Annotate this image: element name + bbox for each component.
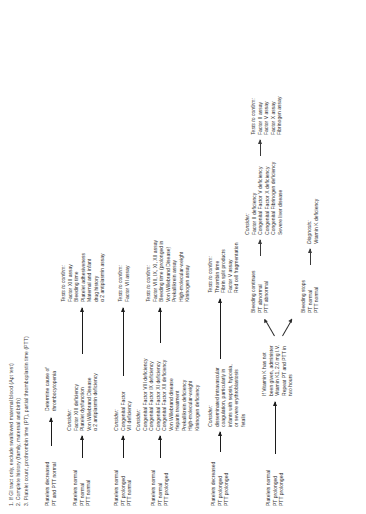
arrow-b6-diagnosis <box>310 249 311 265</box>
branch4-confirm: Tests to confirm: Factor VIII, IX, XI, X… <box>145 240 191 302</box>
arrow-b6-confirm <box>260 140 261 156</box>
arrow-b4-consider <box>160 436 161 458</box>
header-note-3: 3. Platelet count, prothrombin time (PT)… <box>23 336 30 506</box>
header-note-2: 2. Complete history (family, maternal an… <box>15 336 22 506</box>
branch5-confirm: Tests to confirm: Thrombin time Fibrin s… <box>207 243 240 293</box>
branch5-test: Platelets decreased PT prolonged PTT pro… <box>210 462 230 506</box>
branch1-test: Platelets decreased PT and PTT normal <box>44 462 57 506</box>
branch6-test: Platelets normal PT prolonged PTT prolon… <box>265 470 285 506</box>
header-notes: 1. If GI tract only, exclude swallowed m… <box>8 336 30 506</box>
branch2-test: Platelets normal PT normal PTT normal <box>72 470 92 506</box>
branch1-result: Determine cause of thrombocytopenia <box>44 367 57 411</box>
branch6-outcome-continue: Bleeding continues PT abnormal PTT abnor… <box>250 270 270 313</box>
branch2-confirm: Tests to confirm: Factor XIII assay Blee… <box>60 253 106 302</box>
branch6-consider: Consider: Factor II deficiency Congenita… <box>244 162 283 235</box>
arrow-b6-consider <box>260 240 261 256</box>
branch4-test: Platelets normal PT normal PTT prolonged <box>150 470 170 506</box>
arrow-b2-consider <box>82 436 83 458</box>
header-note-1: 1. If GI tract only, exclude swallowed m… <box>8 336 15 506</box>
branch6-action: If Vitamin K has not been given, adminis… <box>261 345 294 396</box>
rotated-canvas: 1. If GI tract only, exclude swallowed m… <box>0 0 366 514</box>
arrow-b5-confirm <box>220 299 221 359</box>
flowchart-stage: 1. If GI tract only, exclude swallowed m… <box>0 0 366 514</box>
branch4-consider: Consider: Congenital Factor VIII deficie… <box>135 358 200 431</box>
branch3-confirm: Tests to confirm: Factor VII assay <box>117 265 130 302</box>
branch6-outcome-stop: Bleeding stops PT normal PTT normal <box>300 280 320 313</box>
branch6-diagnosis: Diagnosis: Vitamin K deficiency <box>306 199 319 244</box>
branch3-consider: Consider: Congenital Factor VII deficien… <box>113 391 133 431</box>
flowchart-canvas: 1. If GI tract only, exclude swallowed m… <box>0 0 366 514</box>
arrow-b4-confirm <box>160 308 161 343</box>
arrow-b2-confirm <box>82 308 83 354</box>
branch3-test: Platelets normal PT prolonged PTT normal <box>113 470 133 506</box>
branch5-consider: Consider: disseminated intravascular coa… <box>207 364 246 427</box>
arrow-b3-confirm <box>123 308 124 376</box>
arrow-b3-consider <box>123 436 124 458</box>
branch6-confirm: Tests to confirm: Factor II assay Factor… <box>250 97 283 135</box>
branch2-consider: Consider: Factor XIII deficiency Platele… <box>66 373 99 431</box>
arrow-b6-continue <box>265 319 275 336</box>
arrow-b5-consider <box>220 432 221 452</box>
arrow-b6-action <box>275 402 276 454</box>
arrow-b1-result <box>51 418 52 446</box>
arrow-b6-stops <box>282 319 292 336</box>
